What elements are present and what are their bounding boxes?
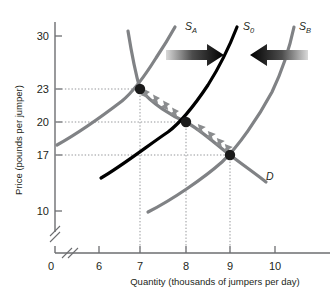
supply-demand-chart: 30 23 20 17 10 0 6 7 8 9 10 Price (pound… bbox=[0, 0, 332, 294]
shift-arrow-right bbox=[166, 44, 224, 66]
curve-label-D: D bbox=[266, 170, 274, 182]
x-tick-label-8: 8 bbox=[183, 260, 189, 272]
y-tick-label-23: 23 bbox=[37, 83, 49, 95]
y-axis-title: Price (pounds per jumper) bbox=[13, 85, 24, 195]
curve-label-SB: S B bbox=[299, 20, 311, 35]
x-axis-ticks bbox=[99, 246, 275, 253]
y-tick-label-30: 30 bbox=[37, 30, 49, 42]
equilibrium-dot-A bbox=[135, 84, 145, 94]
curve-label-SA: S A bbox=[185, 20, 197, 35]
supply-curve-SA bbox=[57, 27, 175, 145]
adjustment-arrows-lower bbox=[196, 124, 233, 153]
curve-label-S0: S 0 bbox=[243, 20, 255, 35]
curve-label-SA-sub: A bbox=[191, 26, 197, 35]
curve-label-S0-main: S bbox=[243, 20, 250, 32]
guide-lines bbox=[55, 89, 230, 253]
curve-label-SB-main: S bbox=[299, 20, 306, 32]
equilibrium-dot-B bbox=[225, 150, 235, 160]
shift-arrow-right-body bbox=[166, 44, 224, 66]
adjustment-arrows-upper bbox=[140, 89, 179, 117]
x-tick-label-6: 6 bbox=[96, 260, 102, 272]
x-tick-label-7: 7 bbox=[137, 260, 143, 272]
shift-arrow-left bbox=[250, 44, 308, 66]
x-tick-label-0: 0 bbox=[48, 260, 54, 272]
y-tick-label-20: 20 bbox=[37, 116, 49, 128]
equilibrium-dot-0 bbox=[181, 117, 191, 127]
curve-label-SA-main: S bbox=[185, 20, 192, 32]
y-tick-label-17: 17 bbox=[37, 149, 49, 161]
x-tick-label-10: 10 bbox=[269, 260, 281, 272]
x-axis-title: Quantity (thousands of jumpers per day) bbox=[130, 276, 300, 287]
y-tick-label-10: 10 bbox=[37, 205, 49, 217]
shift-arrow-left-body bbox=[250, 44, 308, 66]
curve-label-SB-sub: B bbox=[306, 26, 311, 35]
x-tick-label-9: 9 bbox=[227, 260, 233, 272]
y-axis-ticks bbox=[55, 36, 62, 211]
curve-label-S0-sub: 0 bbox=[250, 26, 255, 35]
chart-canvas: 30 23 20 17 10 0 6 7 8 9 10 Price (pound… bbox=[0, 0, 332, 294]
